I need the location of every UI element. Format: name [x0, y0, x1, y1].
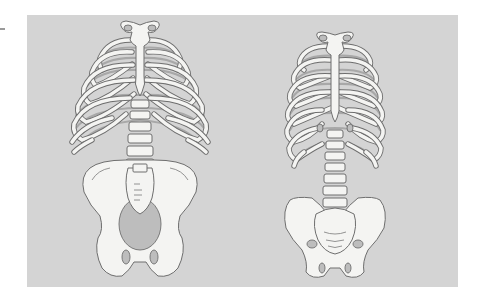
skeleton-illustrations — [0, 0, 480, 303]
left-spine — [126, 100, 154, 169]
right-skeleton — [285, 32, 386, 277]
right-pelvis — [285, 197, 386, 277]
left-pelvis — [83, 160, 197, 276]
left-skeleton — [72, 21, 208, 276]
right-spine — [323, 130, 347, 207]
